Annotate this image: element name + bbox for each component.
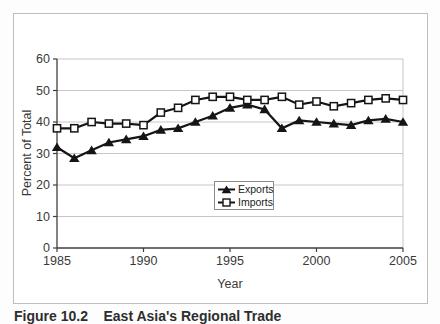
imports-marker-1987 [88, 118, 95, 125]
imports-marker-2002 [348, 100, 355, 107]
imports-marker-1989 [123, 120, 130, 127]
legend-item-exports: Exports [217, 183, 273, 196]
imports-marker-2000 [313, 98, 320, 105]
imports-marker-1998 [278, 93, 285, 100]
exports-marker-1985 [52, 142, 62, 151]
imports-marker-2003 [365, 96, 372, 103]
y-tick-label-20: 20 [36, 178, 50, 192]
exports-line [57, 105, 403, 159]
imports-marker-1988 [105, 120, 112, 127]
legend-label-exports: Exports [238, 183, 274, 195]
imports-marker-1999 [296, 101, 303, 108]
imports-marker-1991 [157, 109, 164, 116]
x-axis-title: Year [217, 277, 242, 291]
y-axis-title: Percent of Total [20, 110, 34, 197]
imports-marker-1992 [175, 104, 182, 111]
imports-marker-1995 [226, 93, 233, 100]
imports-marker-2004 [382, 95, 389, 102]
imports-marker-1996 [244, 96, 251, 103]
y-tick-label-50: 50 [36, 84, 50, 98]
y-tick-label-60: 60 [36, 52, 50, 66]
imports-marker-1990 [140, 122, 147, 129]
legend: Exports Imports [214, 181, 274, 210]
imports-marker-2001 [330, 103, 337, 110]
x-tick-label-2005: 2005 [389, 254, 417, 268]
imports-marker-1993 [192, 96, 199, 103]
x-tick-label-1990: 1990 [130, 254, 158, 268]
x-tick-label-2000: 2000 [303, 254, 331, 268]
imports-marker-1997 [261, 96, 268, 103]
x-tick-label-1995: 1995 [216, 254, 244, 268]
legend-item-imports: Imports [217, 196, 273, 209]
y-tick-label-10: 10 [36, 210, 50, 224]
imports-legend-marker-icon [217, 197, 236, 208]
y-tick-label-40: 40 [36, 115, 50, 129]
imports-marker-2005 [399, 96, 406, 103]
exports-legend-marker-icon [217, 184, 236, 195]
imports-marker-1994 [209, 93, 216, 100]
legend-label-imports: Imports [238, 196, 273, 208]
imports-marker-1985 [53, 125, 60, 132]
imports-marker-1986 [71, 125, 78, 132]
figure-caption: Figure 10.2 East Asia's Regional Trade [14, 308, 281, 324]
y-tick-label-30: 30 [36, 147, 50, 161]
x-tick-label-1985: 1985 [43, 254, 71, 268]
